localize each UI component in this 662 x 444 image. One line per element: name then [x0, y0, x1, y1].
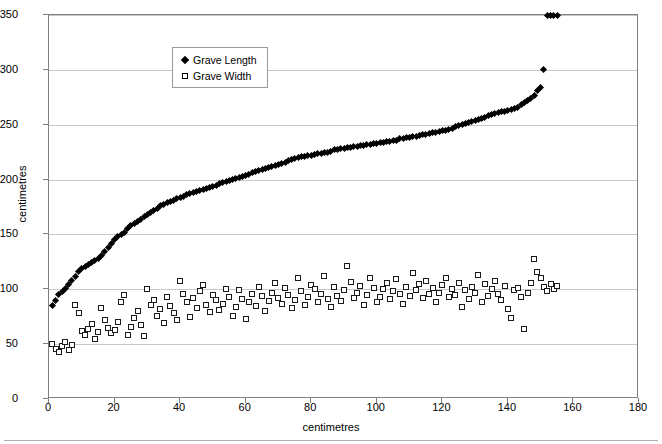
grave-length-point — [154, 205, 161, 212]
grave-width-point — [72, 302, 78, 308]
grave-length-point — [393, 137, 400, 144]
grave-length-point — [514, 104, 521, 111]
footer-divider — [4, 440, 658, 441]
grave-length-point — [245, 171, 252, 178]
grave-length-point — [304, 152, 311, 159]
grave-length-point — [190, 189, 197, 196]
grave-length-point — [334, 146, 341, 153]
grave-width-point — [184, 299, 190, 305]
grave-width-point — [266, 298, 272, 304]
grave-length-point — [478, 115, 485, 122]
x-tick-mark — [507, 398, 508, 403]
chart-legend: Grave Length Grave Width — [172, 47, 268, 88]
grave-width-point — [446, 294, 452, 300]
grave-width-point — [194, 305, 200, 311]
grave-length-point — [409, 133, 416, 140]
grave-length-point — [347, 144, 354, 151]
grave-width-point — [305, 294, 311, 300]
grave-length-point — [167, 198, 174, 205]
gridline — [49, 234, 637, 235]
grave-length-point — [131, 220, 138, 227]
x-tick-label: 160 — [552, 402, 592, 413]
grave-width-point — [430, 285, 436, 291]
grave-width-point — [171, 310, 177, 316]
grave-width-point — [279, 301, 285, 307]
grave-width-point — [275, 295, 281, 301]
grave-length-point — [406, 134, 413, 141]
grave-width-point — [180, 291, 186, 297]
grave-length-point — [137, 216, 144, 223]
grave-width-point — [482, 281, 488, 287]
grave-width-point — [213, 297, 219, 303]
legend-label-grave-width: Grave Width — [193, 70, 251, 82]
x-tick-mark — [179, 398, 180, 403]
grave-length-point — [298, 153, 305, 160]
grave-length-point — [481, 113, 488, 120]
grave-width-point — [236, 287, 242, 293]
grave-width-point — [141, 333, 147, 339]
grave-length-point — [373, 140, 380, 147]
grave-width-point — [112, 327, 118, 333]
grave-width-point — [85, 326, 91, 332]
gridline — [49, 344, 637, 345]
grave-width-point — [56, 349, 62, 355]
grave-length-point — [537, 84, 544, 91]
grave-length-point — [85, 261, 92, 268]
grave-length-point — [265, 164, 272, 171]
grave-width-point — [190, 295, 196, 301]
y-tick-label: 150 — [0, 228, 18, 239]
grave-length-point — [147, 209, 154, 216]
x-tick-mark — [245, 398, 246, 403]
grave-width-point — [66, 347, 72, 353]
x-tick-label: 20 — [94, 402, 134, 413]
grave-length-point — [252, 168, 259, 175]
grave-width-point — [118, 299, 124, 305]
grave-width-point — [79, 328, 85, 334]
grave-width-point — [364, 292, 370, 298]
grave-width-point — [439, 282, 445, 288]
grave-length-point — [462, 120, 469, 127]
grave-length-point — [380, 139, 387, 146]
grave-width-point — [187, 314, 193, 320]
grave-width-point — [462, 287, 468, 293]
grave-length-point — [531, 92, 538, 99]
grave-width-point — [433, 299, 439, 305]
y-tick-label: 250 — [0, 119, 18, 130]
grave-width-point — [354, 290, 360, 296]
grave-width-point — [53, 346, 59, 352]
grave-length-point — [91, 257, 98, 264]
grave-width-point — [325, 296, 331, 302]
grave-length-point — [331, 146, 338, 153]
scatter-chart: centimetres 050100150200250300350 020406… — [0, 0, 662, 444]
grave-width-point — [243, 316, 249, 322]
grave-width-point — [148, 302, 154, 308]
grave-width-point — [505, 306, 511, 312]
x-tick-mark — [638, 398, 639, 403]
grave-width-point — [216, 307, 222, 313]
grave-width-point — [328, 304, 334, 310]
grave-width-point — [518, 294, 524, 300]
grave-length-point — [383, 138, 390, 145]
grave-width-point — [413, 287, 419, 293]
grave-length-point — [186, 190, 193, 197]
x-tick-label: 60 — [225, 402, 265, 413]
grave-length-point — [232, 175, 239, 182]
grave-length-point — [504, 107, 511, 114]
grave-length-point — [72, 273, 79, 280]
grave-width-point — [495, 291, 501, 297]
grave-width-point — [98, 305, 104, 311]
grave-length-point — [268, 163, 275, 170]
grave-length-point — [101, 248, 108, 255]
grave-length-point — [170, 197, 177, 204]
grave-width-point — [76, 310, 82, 316]
grave-width-point — [292, 297, 298, 303]
grave-length-point — [386, 138, 393, 145]
legend-label-grave-length: Grave Length — [193, 54, 257, 66]
grave-length-point — [485, 112, 492, 119]
grave-width-point — [272, 280, 278, 286]
grave-width-point — [485, 293, 491, 299]
grave-width-point — [393, 276, 399, 282]
grave-length-point — [416, 132, 423, 139]
grave-length-point — [249, 169, 256, 176]
grave-width-point — [230, 313, 236, 319]
